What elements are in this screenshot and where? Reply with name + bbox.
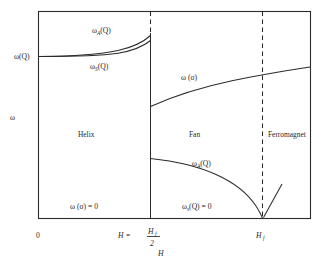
x-tick-label-zero: 0 <box>36 231 40 240</box>
annotation-omega-s-Q-zero-tail: (Q) = 0 <box>189 202 212 211</box>
phase-diagram-svg: ω ω(Q) ωA(Q) ωS(Q) ω (σ) ωA(Q) Helix Fan… <box>0 0 329 260</box>
x-tick-label-hf: H f <box>255 231 266 241</box>
x-tick-hf-half-prefix: H = <box>117 231 131 240</box>
region-label-helix: Helix <box>78 130 95 139</box>
curve-omega-sigma <box>151 67 311 107</box>
label-omega-sigma: ω (σ) <box>181 73 198 82</box>
y-axis-label: ω <box>10 113 15 122</box>
label-omega-A-Q-fan: ωA(Q) <box>192 159 211 169</box>
x-tick-hf-main: H <box>255 231 262 240</box>
label-omega-A-Q-helix: ωA(Q) <box>92 26 111 36</box>
x-axis-label: H <box>157 249 164 258</box>
label-omega-A-Q-fan-tail: (Q) <box>200 159 211 168</box>
x-tick-hf-half-denominator: 2 <box>150 239 154 248</box>
x-tick-hf-sub: f <box>263 235 266 241</box>
svg-text:ωS(Q): ωS(Q) <box>90 62 109 72</box>
svg-text:ωA(Q): ωA(Q) <box>92 26 111 36</box>
label-omega-S-Q-helix: ωS(Q) <box>90 62 109 72</box>
y-tick-label-omega-Q: ω(Q) <box>14 52 30 61</box>
annotation-omega-s-Q-zero: ωs(Q) = 0 <box>182 202 212 212</box>
x-tick-hf-half-numerator: H <box>147 227 154 236</box>
svg-text:ωs(Q) = 0: ωs(Q) = 0 <box>182 202 212 212</box>
annotation-omega-sigma-zero: ω (σ) = 0 <box>70 202 98 211</box>
svg-text:ωA(Q): ωA(Q) <box>192 159 211 169</box>
region-label-ferromagnet: Ferromagnet <box>268 130 307 139</box>
label-omega-S-Q-helix-tail: (Q) <box>98 62 109 71</box>
x-tick-label-hf-half: H = H f 2 <box>117 227 160 248</box>
cusp-arrow-icon <box>264 184 283 218</box>
curve-omega-A-Q-helix <box>39 36 151 57</box>
region-label-fan: Fan <box>189 130 200 139</box>
phase-diagram-figure: ω ω(Q) ωA(Q) ωS(Q) ω (σ) ωA(Q) Helix Fan… <box>0 0 329 260</box>
label-omega-A-Q-helix-tail: (Q) <box>100 26 111 35</box>
plot-frame <box>39 12 311 219</box>
